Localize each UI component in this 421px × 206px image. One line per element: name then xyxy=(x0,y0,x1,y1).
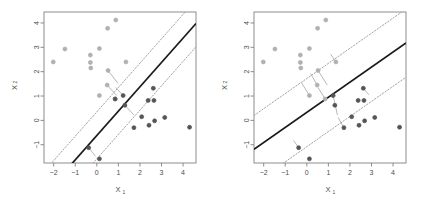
data-point-class_high xyxy=(97,47,101,51)
data-point-class_high xyxy=(51,60,55,64)
data-point-class_low xyxy=(356,98,360,102)
scatter-plot-right: −2−101234−101234X1X2 xyxy=(210,0,421,206)
margin-upper-line xyxy=(254,9,406,115)
x-tick-label: 1 xyxy=(326,169,330,176)
x-tick-label: −2 xyxy=(50,169,58,176)
y-tick-label: 4 xyxy=(244,21,251,25)
scatter-plot-left: −2−101234−101234X1X2 xyxy=(0,0,211,206)
data-point-class_high xyxy=(316,26,320,30)
x-tick-label: 3 xyxy=(370,169,374,176)
data-point-class_low xyxy=(307,157,311,161)
data-point-class_low xyxy=(151,86,155,90)
data-point-class_high xyxy=(106,26,110,30)
y-tick-label: 0 xyxy=(244,118,251,122)
data-point-class_low xyxy=(153,119,157,123)
data-point-class_high xyxy=(298,60,302,64)
data-point-class_low xyxy=(362,98,366,102)
y-tick-label: 3 xyxy=(34,45,41,49)
data-point-class_high xyxy=(88,60,92,64)
data-point-class_low xyxy=(152,98,156,102)
x-tick-label: 0 xyxy=(95,169,99,176)
margin-upper-line xyxy=(44,0,196,172)
data-point-class_high xyxy=(114,18,118,22)
x-tick-label: 1 xyxy=(116,169,120,176)
y-tick-label: 0 xyxy=(34,118,41,122)
y-tick-label: 3 xyxy=(244,45,251,49)
data-point-class_high xyxy=(97,94,101,98)
y-tick-label: 1 xyxy=(34,94,41,98)
data-point-class_low xyxy=(163,115,167,119)
data-point-class_high xyxy=(299,66,303,70)
y-axis-label: X xyxy=(220,85,229,90)
data-point-class_low xyxy=(363,119,367,123)
y-tick-label: −1 xyxy=(34,141,41,149)
slack-segment xyxy=(318,70,327,85)
y-tick-label: 2 xyxy=(244,70,251,74)
separating-hyperplane xyxy=(254,43,406,149)
data-point-class_low xyxy=(373,115,377,119)
data-point-class_low xyxy=(121,94,125,98)
data-point-class_low xyxy=(123,103,127,107)
x-tick-label: 4 xyxy=(391,169,395,176)
x-tick-label: 2 xyxy=(348,169,352,176)
data-point-class_high xyxy=(124,60,128,64)
data-point-class_high xyxy=(307,94,311,98)
data-point-class_high xyxy=(273,47,277,51)
x-axis-label: X xyxy=(325,185,330,194)
y-axis-label-subscript: 2 xyxy=(222,81,228,84)
data-point-class_high xyxy=(307,47,311,51)
x-tick-label: 4 xyxy=(181,169,185,176)
x-tick-label: 0 xyxy=(305,169,309,176)
y-tick-label: 1 xyxy=(244,94,251,98)
data-point-class_low xyxy=(87,146,91,150)
margin-lower-line xyxy=(44,47,196,206)
data-point-class_low xyxy=(97,157,101,161)
plot-box xyxy=(254,12,406,163)
x-axis-label-subscript: 1 xyxy=(123,189,126,195)
data-point-class_low xyxy=(350,115,354,119)
slack-segment xyxy=(108,70,118,83)
x-tick-label: 3 xyxy=(160,169,164,176)
x-axis-label: X xyxy=(115,185,120,194)
x-tick-label: −1 xyxy=(281,169,289,176)
data-point-class_low xyxy=(146,98,150,102)
data-point-class_high xyxy=(63,47,67,51)
data-point-class_low xyxy=(333,103,337,107)
data-point-class_low xyxy=(140,115,144,119)
data-point-class_high xyxy=(315,83,319,87)
data-point-class_high xyxy=(106,68,110,72)
data-point-class_low xyxy=(342,126,346,130)
data-point-class_low xyxy=(147,123,151,127)
data-point-class_low xyxy=(132,126,136,130)
plot-panel-right: −2−101234−101234X1X2 xyxy=(210,0,421,206)
data-point-class_low xyxy=(297,146,301,150)
data-point-class_high xyxy=(323,97,327,101)
data-point-class_high xyxy=(105,83,109,87)
y-tick-label: 4 xyxy=(34,21,41,25)
x-tick-label: 2 xyxy=(138,169,142,176)
data-point-class_high xyxy=(261,60,265,64)
data-point-class_low xyxy=(113,97,117,101)
data-point-class_high xyxy=(89,66,93,70)
data-point-class_low xyxy=(357,123,361,127)
data-point-class_high xyxy=(324,18,328,22)
y-tick-label: −1 xyxy=(244,141,251,149)
data-point-class_low xyxy=(188,125,192,129)
y-axis-label-subscript: 2 xyxy=(12,81,18,84)
data-point-class_high xyxy=(88,53,92,57)
x-axis-label-subscript: 1 xyxy=(333,189,336,195)
data-point-class_low xyxy=(361,86,365,90)
data-point-class_high xyxy=(298,53,302,57)
plot-box xyxy=(44,12,196,163)
data-point-class_low xyxy=(398,125,402,129)
data-point-class_high xyxy=(334,60,338,64)
x-tick-label: −2 xyxy=(260,169,268,176)
x-tick-label: −1 xyxy=(71,169,79,176)
y-tick-label: 2 xyxy=(34,70,41,74)
y-axis-label: X xyxy=(10,85,19,90)
data-point-class_high xyxy=(316,68,320,72)
svm-margin-figure: −2−101234−101234X1X2 −2−101234−101234X1X… xyxy=(0,0,421,206)
data-point-class_low xyxy=(331,94,335,98)
plot-panel-left: −2−101234−101234X1X2 xyxy=(0,0,211,206)
